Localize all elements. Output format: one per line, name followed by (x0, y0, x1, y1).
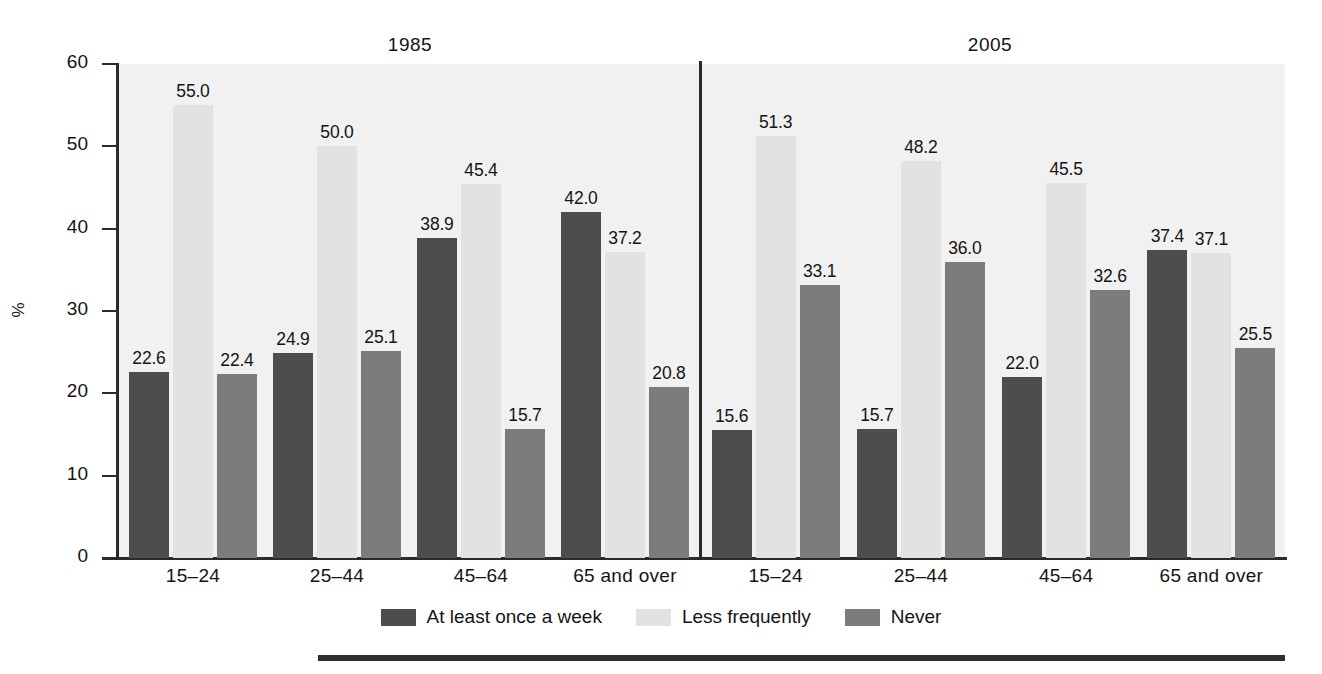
bar (756, 136, 796, 558)
bar (901, 161, 941, 558)
bar-chart-figure: 1985 2005 % 6050403020100 22.655.022.424… (0, 0, 1322, 674)
y-tick-10 (102, 475, 118, 477)
y-tick-20 (102, 392, 118, 394)
bar (605, 252, 645, 558)
bar (217, 374, 257, 558)
bar-value-label: 22.0 (996, 353, 1048, 374)
bar (945, 262, 985, 558)
bar-value-label: 48.2 (895, 137, 947, 158)
chart-legend: At least once a weekLess frequentlyNever (0, 606, 1322, 628)
y-tick-0 (102, 557, 118, 559)
legend-swatch-icon (636, 609, 671, 626)
y-tick-40 (102, 228, 118, 230)
bar-value-label: 55.0 (167, 81, 219, 102)
legend-label: At least once a week (427, 606, 602, 628)
bar-value-label: 15.7 (499, 405, 551, 426)
category-label: 25–44 (257, 565, 417, 587)
bar-value-label: 36.0 (939, 238, 991, 259)
bar-value-label: 24.9 (267, 329, 319, 350)
category-label: 65 and over (1131, 565, 1291, 587)
legend-label: Less frequently (682, 606, 811, 628)
bar-value-label: 37.2 (599, 228, 651, 249)
y-tick-50 (102, 145, 118, 147)
bar-value-label: 45.5 (1040, 159, 1092, 180)
category-label: 25–44 (841, 565, 1001, 587)
legend-item[interactable]: Less frequently (636, 606, 811, 628)
panel-title-2005: 2005 (900, 34, 1080, 56)
bar-value-label: 15.7 (851, 405, 903, 426)
y-tick-label-50: 50 (32, 133, 88, 155)
y-tick-label-60: 60 (32, 51, 88, 73)
panel-title-1985: 1985 (320, 34, 500, 56)
bar-value-label: 15.6 (706, 406, 758, 427)
legend-item[interactable]: At least once a week (381, 606, 602, 628)
bar-value-label: 25.1 (355, 327, 407, 348)
y-tick-label-30: 30 (32, 298, 88, 320)
y-tick-label-40: 40 (32, 216, 88, 238)
legend-item[interactable]: Never (845, 606, 942, 628)
bar (1046, 183, 1086, 558)
bar (561, 212, 601, 558)
bar-value-label: 37.1 (1185, 229, 1237, 250)
y-axis-title: % (9, 290, 29, 330)
bar-value-label: 22.6 (123, 348, 175, 369)
bar-value-label: 33.1 (794, 261, 846, 282)
bar-value-label: 51.3 (750, 112, 802, 133)
category-label: 45–64 (401, 565, 561, 587)
bar-value-label: 25.5 (1229, 324, 1281, 345)
bar (317, 146, 357, 558)
bar (461, 184, 501, 558)
y-tick-label-20: 20 (32, 380, 88, 402)
legend-swatch-icon (845, 609, 880, 626)
category-label: 15–24 (696, 565, 856, 587)
bar (417, 238, 457, 558)
bottom-divider-rule (318, 655, 1285, 661)
bar (800, 285, 840, 558)
legend-label: Never (891, 606, 942, 628)
bar (173, 105, 213, 558)
bar (1002, 377, 1042, 558)
bar (273, 353, 313, 558)
bar (1090, 290, 1130, 558)
y-tick-label-10: 10 (32, 463, 88, 485)
bar (857, 429, 897, 558)
bar (649, 387, 689, 558)
bar-value-label: 42.0 (555, 188, 607, 209)
bar-value-label: 20.8 (643, 363, 695, 384)
panel-divider (699, 61, 702, 560)
bar-value-label: 22.4 (211, 350, 263, 371)
bar-value-label: 32.6 (1084, 266, 1136, 287)
legend-swatch-icon (381, 609, 416, 626)
bar-value-label: 50.0 (311, 122, 363, 143)
bar (129, 372, 169, 558)
category-label: 45–64 (986, 565, 1146, 587)
bar (505, 429, 545, 558)
bar (1191, 253, 1231, 558)
bar (1235, 348, 1275, 558)
bar (712, 430, 752, 558)
y-tick-30 (102, 310, 118, 312)
y-tick-label-0: 0 (32, 545, 88, 567)
category-label: 65 and over (545, 565, 705, 587)
category-label: 15–24 (113, 565, 273, 587)
y-tick-60 (102, 63, 118, 65)
bar-value-label: 45.4 (455, 160, 507, 181)
bar-value-label: 38.9 (411, 214, 463, 235)
bar (1147, 250, 1187, 558)
bar (361, 351, 401, 558)
